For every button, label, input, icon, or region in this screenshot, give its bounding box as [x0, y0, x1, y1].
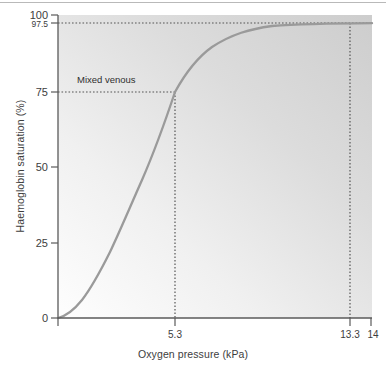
mixed-venous-annotation: Mixed venous — [77, 74, 136, 85]
y-tick-label-97-5: 97.5 — [8, 19, 48, 29]
oxygen-dissociation-chart-figure: 100 97.5 75 50 25 0 5.3 13.3 14 Mixed ve… — [0, 0, 386, 370]
x-tick-label-14: 14 — [361, 329, 385, 340]
y-tick-label-0: 0 — [8, 312, 48, 324]
x-tick-label-5-3: 5.3 — [155, 329, 195, 340]
chart-canvas — [0, 0, 386, 370]
plot-area-background — [58, 15, 372, 318]
x-axis-title: Oxygen pressure (kPa) — [0, 348, 386, 360]
y-axis-title: Haemoglobin saturation (%) — [14, 86, 26, 246]
